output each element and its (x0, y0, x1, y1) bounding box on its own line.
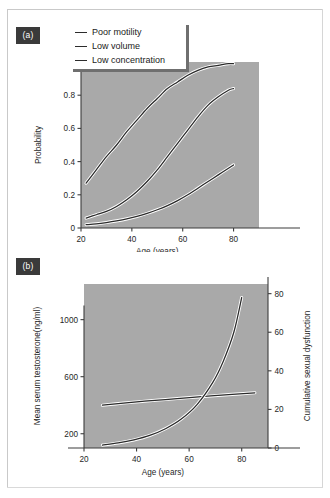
y-tick-left-label: 200 (64, 430, 78, 439)
legend-label: Poor motility (92, 25, 142, 39)
x-tick-label: 20 (76, 235, 86, 244)
x-axis-title: Age (years) (142, 468, 185, 477)
y-tick-right-label: 80 (275, 290, 285, 299)
x-tick-label: 20 (79, 455, 89, 464)
legend-label: Low concentration (92, 53, 165, 67)
legend-label: Low volume (92, 39, 140, 53)
y-tick-right-label: 20 (275, 405, 285, 414)
y-axis-right-title: Cumulative sexual dysfunction (303, 310, 312, 421)
legend-line-swatch-icon (75, 46, 87, 47)
legend-line-swatch-icon (75, 32, 87, 33)
y-tick-right-label: 40 (275, 367, 285, 376)
y-tick-label: 0.2 (64, 191, 76, 200)
legend-item-poor-motility: Poor motility (75, 25, 182, 39)
panel-b-plot: 200600100002040608020406080Age (years)Me… (0, 250, 330, 498)
panel-a: (a) 00.20.40.60.8120406080Age (years)Pro… (0, 0, 330, 252)
y-axis-title: Probability (34, 125, 43, 164)
y-tick-label: 0.4 (64, 158, 76, 167)
x-tick-label: 60 (185, 455, 195, 464)
x-tick-label: 80 (229, 235, 239, 244)
y-tick-left-label: 1000 (60, 316, 79, 325)
y-tick-label: 0 (70, 224, 75, 233)
x-tick-label: 80 (237, 455, 247, 464)
y-tick-label: 0.6 (64, 124, 76, 133)
y-tick-left-label: 600 (64, 373, 78, 382)
legend-item-low-concentration: Low concentration (75, 53, 182, 67)
x-tick-label: 60 (178, 235, 188, 244)
legend-item-low-volume: Low volume (75, 39, 182, 53)
x-tick-label: 40 (127, 235, 137, 244)
y-axis-left-title: Mean serum testosterone(ng/ml) (33, 307, 42, 426)
legend-line-swatch-icon (75, 60, 87, 61)
y-tick-right-label: 60 (275, 328, 285, 337)
y-tick-label: 0.8 (64, 91, 76, 100)
x-tick-label: 40 (132, 455, 142, 464)
legend: Poor motility Low volume Low concentrati… (70, 22, 186, 69)
panel-b: (b) 200600100002040608020406080Age (year… (0, 250, 330, 498)
figure-page: (a) 00.20.40.60.8120406080Age (years)Pro… (0, 0, 330, 498)
